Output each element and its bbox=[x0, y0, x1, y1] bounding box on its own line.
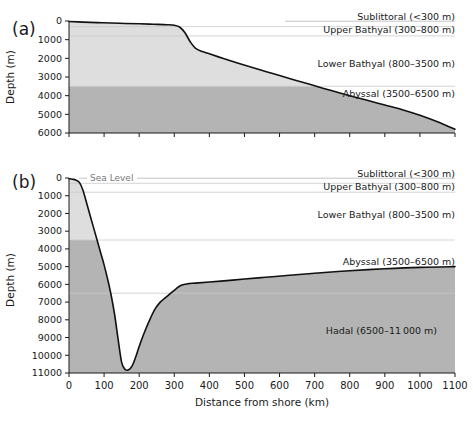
x-tick-label: 0 bbox=[66, 380, 72, 391]
panel-a-zone-label-abyssal: Abyssal (3500–6500 m) bbox=[343, 88, 455, 99]
y-tick-label: 0 bbox=[56, 172, 62, 183]
panel-a-y-axis-title: Depth (m) bbox=[4, 50, 16, 104]
panel-a-zone-label-upper-bathyal: Upper Bathyal (300–800 m) bbox=[323, 24, 455, 35]
y-tick-label: 5000 bbox=[38, 261, 62, 272]
y-tick-label: 5000 bbox=[38, 109, 62, 120]
panel-b-tag: (b) bbox=[12, 172, 36, 192]
x-tick-label: 400 bbox=[200, 380, 219, 391]
y-tick-label: 11000 bbox=[32, 367, 62, 378]
panel-b-zone-label-sublittoral: Sublittoral (<300 m) bbox=[357, 168, 455, 179]
y-tick-label: 4000 bbox=[38, 243, 62, 254]
figure-svg: (a) 0100020003000400050006000 Depth (m) bbox=[0, 0, 473, 428]
y-tick-label: 1000 bbox=[38, 190, 62, 201]
y-tick-label: 10000 bbox=[32, 350, 62, 361]
panel-b-sea-level-label: Sea Level bbox=[90, 173, 133, 183]
x-tick-label: 200 bbox=[130, 380, 149, 391]
x-tick-label: 800 bbox=[340, 380, 359, 391]
y-tick-label: 9000 bbox=[38, 332, 62, 343]
x-tick-label: 100 bbox=[95, 380, 114, 391]
x-tick-label: 300 bbox=[165, 380, 184, 391]
ocean-depth-zonation-figure: (a) 0100020003000400050006000 Depth (m) bbox=[0, 0, 473, 428]
panel-a-zone-label-lower-bathyal: Lower Bathyal (800–3500 m) bbox=[318, 58, 455, 69]
y-tick-label: 4000 bbox=[38, 90, 62, 101]
x-tick-label: 700 bbox=[305, 380, 324, 391]
panel-a-zone-label-sublittoral: Sublittoral (<300 m) bbox=[357, 11, 455, 22]
panel-b-zone-label-hadal: Hadal (6500–11 000 m) bbox=[326, 325, 437, 336]
y-tick-label: 1000 bbox=[38, 34, 62, 45]
y-tick-label: 6000 bbox=[38, 279, 62, 290]
y-tick-label: 8000 bbox=[38, 314, 62, 325]
x-tick-label: 600 bbox=[270, 380, 289, 391]
x-tick-label: 500 bbox=[235, 380, 254, 391]
panel-b-zone-label-lower-bathyal: Lower Bathyal (800–3500 m) bbox=[318, 209, 455, 220]
panel-b-zone-label-upper-bathyal: Upper Bathyal (300–800 m) bbox=[323, 181, 455, 192]
y-tick-label: 6000 bbox=[38, 127, 62, 138]
y-tick-label: 2000 bbox=[38, 208, 62, 219]
panel-b-zone-label-abyssal: Abyssal (3500–6500 m) bbox=[343, 256, 455, 267]
x-tick-label: 1100 bbox=[442, 380, 467, 391]
y-tick-label: 7000 bbox=[38, 296, 62, 307]
panel-b-y-axis-title: Depth (m) bbox=[4, 253, 16, 307]
y-tick-label: 3000 bbox=[38, 71, 62, 82]
y-tick-label: 3000 bbox=[38, 225, 62, 236]
x-tick-label: 900 bbox=[375, 380, 394, 391]
x-axis-title: Distance from shore (km) bbox=[195, 396, 329, 408]
x-tick-label: 1000 bbox=[407, 380, 432, 391]
y-tick-label: 2000 bbox=[38, 53, 62, 64]
y-tick-label: 0 bbox=[56, 15, 62, 26]
panel-a-tag: (a) bbox=[12, 19, 36, 39]
